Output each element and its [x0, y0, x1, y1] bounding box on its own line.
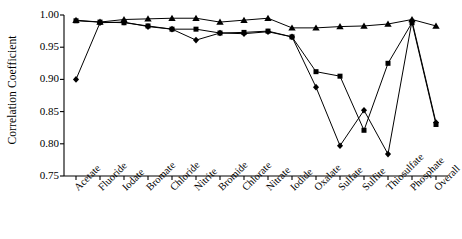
y-axis-tick-label: 0.75 — [40, 170, 59, 181]
y-axis-tick-label: 0.95 — [40, 41, 59, 52]
data-point-diamond — [313, 84, 319, 91]
data-point-triangle — [264, 15, 271, 21]
series-line — [76, 21, 436, 130]
y-axis-tick-label: 0.80 — [40, 138, 59, 149]
data-point-triangle — [72, 17, 79, 23]
data-point-diamond — [193, 37, 199, 44]
series-diamond — [73, 18, 439, 158]
data-point-square — [170, 27, 175, 32]
data-point-square — [386, 61, 391, 66]
data-point-square — [218, 31, 223, 36]
data-point-diamond — [73, 76, 79, 83]
data-point-diamond — [385, 151, 391, 158]
series-square — [74, 18, 439, 132]
data-point-square — [362, 128, 367, 133]
y-axis-tick-label: 0.90 — [40, 73, 59, 84]
data-point-square — [434, 122, 439, 127]
plot-area — [64, 15, 448, 176]
data-point-square — [146, 23, 151, 28]
data-point-square — [266, 29, 271, 34]
data-point-triangle — [408, 16, 415, 22]
plot-svg — [64, 15, 448, 176]
data-point-square — [194, 27, 199, 32]
series-line — [76, 21, 436, 154]
data-point-square — [290, 34, 295, 39]
y-axis-tick-label: 1.00 — [40, 9, 59, 20]
y-axis-tick-label: 0.85 — [40, 106, 59, 117]
y-axis-label: Correlation Coefficient — [0, 0, 24, 180]
data-point-square — [338, 74, 343, 79]
data-point-square — [242, 30, 247, 35]
y-axis-label-text: Correlation Coefficient — [6, 35, 18, 144]
data-point-square — [314, 69, 319, 74]
x-axis-tick-labels: AcetateFluorideIodateBromateChlorideNitr… — [0, 181, 456, 239]
y-axis-tick-labels: 1.000.950.900.850.800.75 — [22, 0, 62, 185]
